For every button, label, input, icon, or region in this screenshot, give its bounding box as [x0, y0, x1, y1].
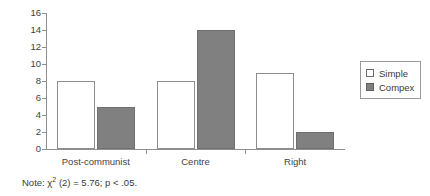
y-tick-mark — [42, 132, 46, 133]
y-tick-mark — [42, 149, 46, 150]
y-tick-mark — [42, 47, 46, 48]
y-tick-label: 14 — [30, 23, 41, 36]
legend-label-compex: Compex — [379, 81, 414, 94]
note-rest: (2) = 5.76; p < .05. — [56, 177, 137, 188]
y-tick-label: 6 — [36, 91, 41, 104]
y-tick-mark — [42, 64, 46, 65]
legend-swatch-compex-icon — [366, 83, 374, 91]
y-tick-label: 2 — [36, 125, 41, 138]
bar — [57, 81, 95, 149]
y-tick-label: 16 — [30, 6, 41, 19]
y-axis-line — [46, 13, 47, 150]
bar — [97, 107, 135, 150]
x-axis-label: Right — [284, 155, 306, 168]
bar — [197, 30, 235, 149]
note-prefix: Note: — [22, 177, 47, 188]
x-tick-mark — [146, 150, 147, 154]
y-tick-label: 4 — [36, 108, 41, 121]
y-tick-mark — [42, 30, 46, 31]
y-tick-mark — [42, 81, 46, 82]
y-tick-mark — [42, 98, 46, 99]
legend-label-simple: Simple — [379, 67, 408, 80]
legend-item-compex: Compex — [366, 80, 414, 94]
x-axis-label: Centre — [181, 155, 210, 168]
chart-figure: 0246810121416 Post-communistCentreRight … — [0, 0, 430, 196]
legend-item-simple: Simple — [366, 66, 414, 80]
legend-swatch-simple-icon — [366, 69, 374, 77]
y-tick-mark — [42, 115, 46, 116]
bar — [256, 73, 294, 150]
y-tick-label: 12 — [30, 40, 41, 53]
y-tick-label: 8 — [36, 74, 41, 87]
y-tick-label: 10 — [30, 57, 41, 70]
y-tick-label: 0 — [36, 142, 41, 155]
bar-group — [57, 13, 135, 149]
chart-legend: Simple Compex — [360, 61, 421, 99]
bar — [157, 81, 195, 149]
x-axis-line — [46, 149, 345, 150]
x-tick-mark — [245, 150, 246, 154]
chart-note: Note: χ2 (2) = 5.76; p < .05. — [22, 176, 137, 189]
y-tick-mark — [42, 13, 46, 14]
bar — [296, 132, 334, 149]
x-axis-label: Post-communist — [62, 155, 130, 168]
plot-area: 0246810121416 Post-communistCentreRight — [46, 13, 345, 150]
bar-group — [256, 13, 334, 149]
bar-group — [157, 13, 235, 149]
